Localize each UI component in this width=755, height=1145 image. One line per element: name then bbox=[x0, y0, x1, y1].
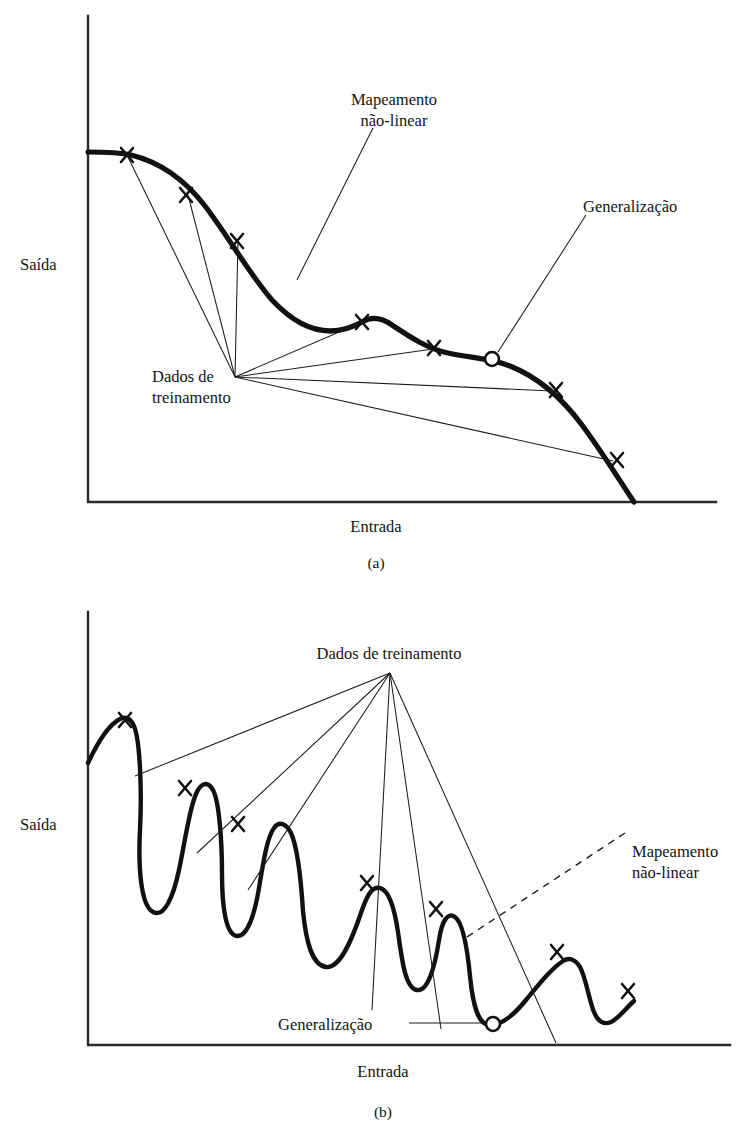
panel-a-y-axis-label: Saída bbox=[20, 255, 57, 274]
panel-b-training-markers bbox=[119, 713, 634, 998]
panel-a-mapping-curve bbox=[88, 152, 634, 502]
panel-b-generalization-marker bbox=[486, 1017, 500, 1031]
panel-b-training-leaders bbox=[135, 673, 556, 1043]
panel-a-caption: (a) bbox=[367, 554, 384, 572]
training-marker-x bbox=[179, 781, 191, 795]
figure-container: Saída Entrada Mapeamento não-linear Gene… bbox=[0, 0, 755, 1145]
panel-b: Saída Entrada Dados de treinamento Mapea… bbox=[20, 612, 730, 1121]
leader-to-point-5 bbox=[235, 349, 433, 377]
leader-to-point-2 bbox=[188, 195, 235, 377]
training-marker-x bbox=[361, 876, 373, 890]
panel-b-training-label: Dados de treinamento bbox=[317, 644, 462, 663]
leader-to-point-6 bbox=[235, 377, 552, 391]
training-marker-x bbox=[611, 453, 623, 467]
leader-to-point-4 bbox=[372, 673, 390, 1010]
leader-to-point-4 bbox=[235, 323, 360, 377]
training-marker-x bbox=[430, 902, 442, 916]
panel-a-x-axis-label: Entrada bbox=[350, 517, 402, 536]
panel-a-training-label-line2: treinamento bbox=[152, 388, 231, 407]
panel-b-caption: (b) bbox=[374, 1103, 392, 1121]
panel-b-mapping-leader bbox=[467, 833, 625, 937]
panel-a-generalization-leader bbox=[498, 215, 586, 352]
panel-a-generalization-label: Generalização bbox=[583, 197, 677, 216]
leader-to-point-2 bbox=[197, 673, 390, 853]
figure-svg: Saída Entrada Mapeamento não-linear Gene… bbox=[0, 0, 755, 1145]
panel-a-mapping-leader bbox=[297, 128, 373, 280]
panel-b-x-axis-label: Entrada bbox=[357, 1062, 409, 1081]
panel-a-axes bbox=[88, 16, 716, 502]
panel-b-mapping-label-line1: Mapeamento bbox=[632, 842, 718, 861]
training-marker-x bbox=[232, 817, 244, 831]
training-marker-x bbox=[622, 984, 634, 998]
panel-a-generalization-marker bbox=[485, 352, 499, 366]
panel-b-mapping-label-line2: não-linear bbox=[632, 863, 699, 882]
panel-a-mapping-label-line1: Mapeamento bbox=[351, 90, 437, 109]
panel-b-mapping-curve bbox=[88, 718, 634, 1025]
leader-to-point-3 bbox=[248, 673, 390, 890]
training-marker-x bbox=[231, 234, 243, 248]
training-marker-x bbox=[180, 188, 192, 202]
panel-b-generalization-label: Generalização bbox=[278, 1015, 372, 1034]
panel-a-mapping-label-line2: não-linear bbox=[361, 111, 428, 130]
leader-to-point-5 bbox=[390, 673, 441, 1029]
leader-to-point-3 bbox=[235, 241, 238, 377]
panel-a: Saída Entrada Mapeamento não-linear Gene… bbox=[20, 16, 716, 572]
panel-b-y-axis-label: Saída bbox=[20, 815, 57, 834]
training-marker-x bbox=[551, 945, 563, 959]
leader-to-point-1 bbox=[135, 673, 390, 776]
panel-a-training-label-line1: Dados de bbox=[152, 367, 214, 386]
